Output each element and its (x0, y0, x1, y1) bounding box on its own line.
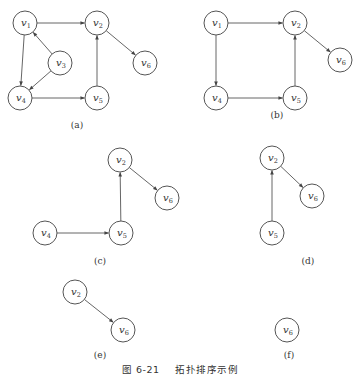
node-v5: v5 (260, 221, 284, 245)
node-v6: v6 (111, 318, 135, 342)
panel-d: v2v6v5(d) (260, 146, 324, 266)
node-v4: v4 (33, 221, 57, 245)
node-v2: v2 (63, 280, 87, 304)
panel-label-b: (b) (271, 110, 284, 120)
topological-sort-diagram: v1v2v3v4v5v6(a)v1v2v4v5v6(b)v2v6v4v5(c)v… (0, 0, 359, 379)
edge-v2-to-v6 (304, 31, 330, 52)
edge-v3-to-v4 (29, 71, 51, 90)
node-v6: v6 (275, 318, 299, 342)
edge-v2-to-v6 (84, 299, 113, 322)
panels-container: v1v2v3v4v5v6(a)v1v2v4v5v6(b)v2v6v4v5(c)v… (8, 11, 352, 360)
panel-label-d: (d) (302, 256, 315, 266)
node-v1: v1 (13, 11, 37, 35)
node-v3: v3 (48, 51, 72, 75)
panel-e: v2v6(e) (63, 280, 135, 360)
node-v5: v5 (109, 221, 133, 245)
node-v4: v4 (8, 86, 32, 110)
node-v1: v1 (204, 11, 228, 35)
node-v2: v2 (85, 11, 109, 35)
node-v6: v6 (300, 184, 324, 208)
panel-f: v6(f) (275, 318, 299, 360)
panel-label-a: (a) (71, 120, 83, 130)
edge-v2-to-v6 (106, 31, 135, 55)
caption-number: 图 6-21 (122, 364, 160, 375)
node-v4: v4 (204, 86, 228, 110)
node-v6: v6 (328, 48, 352, 72)
panel-a: v1v2v3v4v5v6(a) (8, 11, 157, 130)
node-v6: v6 (133, 51, 157, 75)
panel-c: v2v6v4v5(c) (33, 148, 179, 266)
node-v5: v5 (283, 86, 307, 110)
panel-label-c: (c) (94, 256, 106, 266)
panel-label-f: (f) (284, 350, 294, 360)
edge-v2-to-v6 (281, 166, 303, 187)
node-v5: v5 (85, 86, 109, 110)
node-v2: v2 (260, 146, 284, 170)
node-v2: v2 (108, 148, 132, 172)
edge-v3-to-v1 (33, 32, 52, 54)
node-v6: v6 (155, 186, 179, 210)
caption-title: 拓扑排序示例 (175, 364, 238, 375)
panel-label-e: (e) (94, 350, 106, 360)
node-v2: v2 (283, 11, 307, 35)
edge-v2-to-v6 (129, 168, 157, 191)
edge-v1-to-v4 (21, 35, 24, 86)
panel-b: v1v2v4v5v6(b) (204, 11, 352, 120)
figure-caption: 图 6-21 拓扑排序示例 (122, 364, 238, 375)
edge-v5-to-v2 (120, 172, 121, 221)
